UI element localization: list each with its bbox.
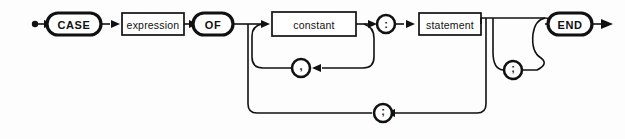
punct-semicolon-optional-label: ; (511, 62, 515, 74)
terminal-end-label: END (557, 19, 582, 31)
entry-dot-icon (32, 21, 38, 27)
case-statement-railroad-diagram: CASE expression OF constant , (0, 0, 625, 139)
nonterminal-constant-label: constant (293, 19, 334, 31)
arrowhead-icon-into-colon (368, 20, 377, 28)
arrowhead-icon-exit (601, 19, 613, 29)
punct-colon-label: : (384, 18, 388, 30)
arrowhead-icon-into-comma (312, 64, 321, 72)
syntax-diagram-canvas: CASE expression OF constant , (0, 0, 625, 139)
nonterminal-statement-label: statement (426, 19, 474, 31)
punct-comma-label: , (299, 60, 302, 72)
arrowhead-icon-into-expression (111, 20, 120, 28)
rail-trailing-semicolon-right (522, 18, 545, 70)
terminal-of-label: OF (205, 19, 221, 31)
terminal-case-label: CASE (58, 19, 91, 31)
arrowhead-icon-into-statement (406, 20, 415, 28)
punct-semicolon-bottom-label: ; (381, 105, 385, 117)
arrowhead-icon-into-constant (261, 20, 270, 28)
nonterminal-expression-label: expression (127, 19, 180, 31)
